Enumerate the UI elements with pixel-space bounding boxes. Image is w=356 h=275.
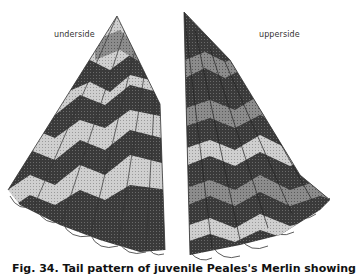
underside-label: underside <box>54 30 95 39</box>
upperside-tail <box>170 0 341 260</box>
figure-caption: Fig. 34. Tail pattern of juvenile Peales… <box>12 262 342 275</box>
underside-tail <box>0 0 170 260</box>
upperside-label: upperside <box>259 30 300 39</box>
